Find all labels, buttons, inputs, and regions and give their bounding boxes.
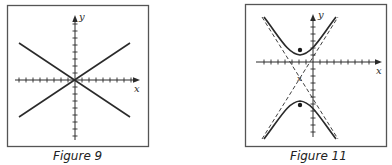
figure-11-caption: Figure 11 xyxy=(290,149,347,163)
figure-9-y-arrow-icon xyxy=(72,15,77,22)
figure-11-focus-upper-icon xyxy=(298,48,302,52)
figure-11-x-label: x xyxy=(376,65,382,76)
figure-11-ticks xyxy=(264,20,369,132)
figure-11-center-marker: x xyxy=(297,74,302,83)
figure-9-frame xyxy=(8,6,149,147)
figure-11-x-arrow-icon xyxy=(375,59,382,64)
figure-9-x-arrow-icon xyxy=(133,77,140,82)
figure-9-plot: y x xyxy=(0,0,160,150)
figure-11-focus-lower-icon xyxy=(298,103,302,107)
figure-11-frame xyxy=(246,5,387,147)
figure-9-caption: Figure 9 xyxy=(53,149,102,163)
figure-11-y-label: y xyxy=(317,9,324,20)
figure-9-x-label: x xyxy=(134,83,140,94)
figure-11-plot: x y x xyxy=(240,0,392,150)
figure-9-y-label: y xyxy=(78,11,85,22)
